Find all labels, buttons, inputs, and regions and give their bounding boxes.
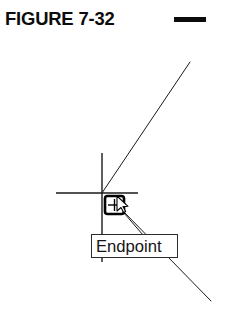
endpoint-tooltip: Endpoint [91, 234, 178, 258]
tooltip-leader-line [124, 213, 143, 235]
geometry-line-upper-diagonal [102, 62, 190, 193]
cad-vector-scene [0, 0, 227, 311]
endpoint-tooltip-label: Endpoint [92, 238, 162, 255]
cad-drawing-canvas [0, 0, 227, 311]
figure-root: FIGURE 7-32 [0, 0, 227, 311]
